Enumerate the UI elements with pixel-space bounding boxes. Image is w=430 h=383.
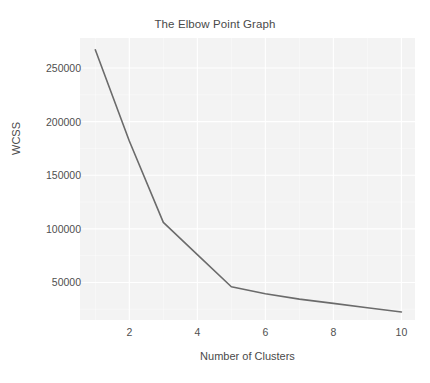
x-axis-tick-label: 6	[245, 326, 285, 338]
gridlines-group	[80, 38, 415, 320]
x-axis-tick-label: 2	[109, 326, 149, 338]
x-axis-tick-label: 10	[381, 326, 421, 338]
chart-title: The Elbow Point Graph	[0, 18, 430, 30]
elbow-curve-svg	[80, 38, 415, 320]
y-axis-tick-label: 100000	[11, 223, 81, 235]
x-axis-tick-label: 4	[177, 326, 217, 338]
x-axis-tick-label: 8	[313, 326, 353, 338]
plot-area	[80, 38, 415, 320]
x-axis-label: Number of Clusters	[80, 350, 415, 362]
y-axis-tick-label: 50000	[11, 276, 81, 288]
y-axis-tick-label: 150000	[11, 169, 81, 181]
y-axis-tick-label: 250000	[11, 62, 81, 74]
elbow-curve-line	[95, 50, 401, 312]
chart-figure: The Elbow Point Graph 500001000001500002…	[0, 0, 430, 383]
y-axis-label: WCSS	[10, 122, 22, 155]
